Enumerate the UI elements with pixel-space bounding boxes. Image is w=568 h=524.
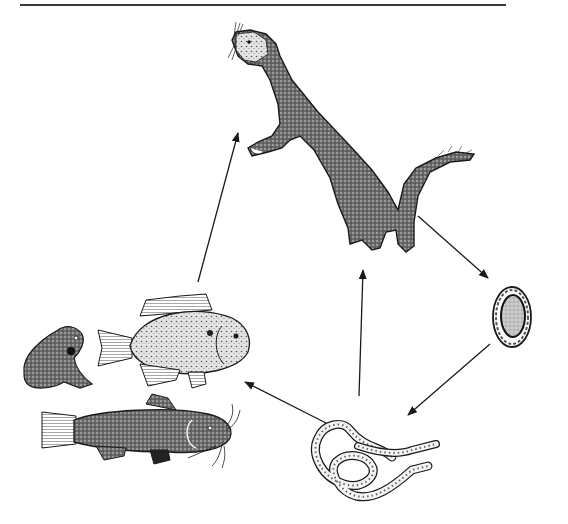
frog-illustration [24, 327, 92, 389]
mink-illustration [228, 22, 474, 252]
sunfish-illustration [98, 294, 249, 388]
arrow-mink-to-egg [418, 216, 488, 278]
egg-illustration [493, 287, 531, 347]
arrow-paratenic-to-mink [198, 133, 238, 282]
arrow-egg-to-larva [408, 344, 490, 415]
arrow-larva-to-mink [359, 270, 363, 396]
catfish-illustration [42, 394, 240, 468]
life-cycle-diagram [0, 0, 568, 524]
larva-worm-illustration [316, 424, 436, 496]
arrow-larva-to-paratenic [245, 382, 326, 423]
